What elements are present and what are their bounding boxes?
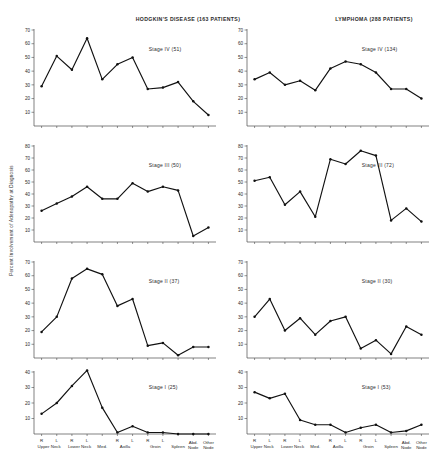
data-point [40,413,43,416]
x-tick-side-label: R [116,438,119,443]
data-point [253,78,256,81]
chart-panel-lymphoma-stage-4: 10203040506070Stage IV (134) [227,26,435,130]
data-point [147,88,150,91]
data-point [162,431,165,434]
data-point [56,55,59,58]
data-point [131,56,134,59]
data-point [101,78,104,81]
data-point [177,433,180,436]
data-point [344,431,347,434]
y-tick-label: 10 [25,416,31,421]
data-point [56,402,59,405]
data-point [207,114,210,117]
data-point [192,235,195,238]
data-point [253,316,256,319]
data-point [375,71,378,74]
data-point [56,202,59,205]
series-line [255,62,422,99]
data-point [420,97,423,100]
data-point [390,88,393,91]
data-point [101,198,104,201]
x-tick-side-label: R [70,438,73,443]
data-point [40,85,43,88]
x-group-label: Spleen [171,444,185,449]
y-tick-label: 10 [238,228,244,233]
x-group-label: Spleen [384,444,398,449]
chart-panel-hodgkins-stage-3: 1020304050607080Stage III (50) [14,142,222,246]
series-line [42,269,209,355]
data-point [405,88,408,91]
data-point [269,176,272,179]
y-tick-label: 70 [25,28,31,33]
chart-panel-hodgkins-stage-2: 10203040506070Stage II (37) [14,258,222,362]
x-tick-side-label: R [253,438,256,443]
y-tick-label: 30 [25,315,31,320]
data-point [344,163,347,166]
y-tick-label: 50 [238,180,244,185]
data-point [162,186,165,189]
y-tick-label: 60 [25,273,31,278]
data-point [344,60,347,63]
y-tick-label: 30 [25,83,31,88]
data-point [360,427,363,430]
data-point [299,79,302,82]
y-tick-label: 60 [238,41,244,46]
chart-panel-lymphoma-stage-3: 1020304050607080Stage III (72) [227,142,435,246]
data-point [420,423,423,426]
stage-annotation: Stage I (53) [362,384,391,390]
x-tick-side-label: L [269,438,272,443]
data-point [360,347,363,350]
y-tick-label: 10 [25,110,31,115]
data-point [207,433,210,436]
data-point [299,317,302,320]
data-point [269,397,272,400]
data-point [253,391,256,394]
data-point [86,369,89,372]
series-line [255,151,422,222]
data-point [329,67,332,70]
chart-panel-lymphoma-stage-1: 10203040Stage I (53)RLRLRLRLUpper NeckLo… [227,368,435,454]
data-point [299,419,302,422]
y-tick-label: 20 [25,216,31,221]
data-point [162,86,165,89]
data-point [131,298,134,301]
figure-root: HODGKIN'S DISEASE (163 PATIENTS) LYMPHOM… [0,0,448,471]
stage-annotation: Stage I (25) [149,384,178,390]
y-tick-label: 20 [25,328,31,333]
x-group-label: Med. [310,444,320,449]
data-point [207,346,210,349]
data-point [147,431,150,434]
x-tick-side-label: L [162,438,165,443]
data-point [284,329,287,332]
data-point [314,89,317,92]
y-tick-label: 40 [25,301,31,306]
data-point [375,423,378,426]
y-tick-label: 40 [25,370,31,375]
y-tick-label: 80 [25,144,31,149]
data-point [405,325,408,328]
data-point [253,180,256,183]
data-point [420,220,423,223]
y-tick-label: 20 [238,96,244,101]
y-axis-label: Percent Involvement of Adenopathy at Dia… [9,126,14,316]
y-tick-label: 10 [238,110,244,115]
data-point [86,37,89,40]
y-tick-label: 40 [25,192,31,197]
x-tick-side-label: R [146,438,149,443]
x-tick-side-label: L [375,438,378,443]
data-point [192,346,195,349]
x-tick-side-label: L [299,438,302,443]
data-point [116,431,119,434]
data-point [390,219,393,222]
y-tick-label: 70 [238,28,244,33]
y-tick-label: 30 [25,204,31,209]
data-point [40,210,43,213]
data-point [71,69,74,72]
chart-title-lymphoma: LYMPHOMA (288 PATIENTS) [300,16,448,22]
y-tick-label: 70 [25,156,31,161]
y-tick-label: 70 [238,156,244,161]
x-tick-side-label: R [359,438,362,443]
data-point [192,433,195,436]
y-tick-label: 20 [238,328,244,333]
x-tick-side-label: R [40,438,43,443]
